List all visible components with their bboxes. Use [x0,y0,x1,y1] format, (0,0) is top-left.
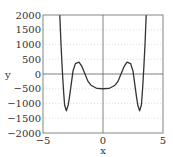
y-tick-label: −1000 [7,98,41,109]
y-tick-label: 1500 [16,24,41,35]
x-tick-label: 5 [160,135,166,146]
y-tick-label: 500 [22,54,41,65]
y-tick-label: 2000 [16,10,41,21]
y-tick-labels: 2000150010005000−500−1000−1500−2000 [7,10,41,139]
y-tick-label: 1000 [16,39,41,50]
y-axis-label: y [4,69,11,80]
x-tick-label: −5 [36,135,51,146]
y-tick-label: 0 [35,69,41,80]
line-chart: 2000150010005000−500−1000−1500−2000 −505… [0,0,173,157]
x-axis-label: x [100,145,106,156]
y-tick-label: −500 [14,83,41,94]
y-tick-label: −1500 [7,113,41,124]
